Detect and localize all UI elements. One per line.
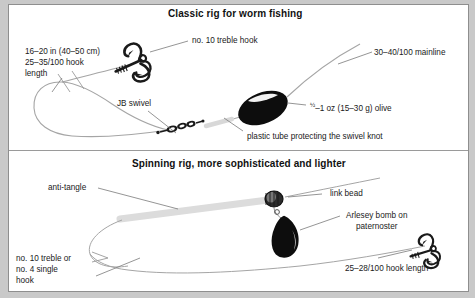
spinning-arlesey-line2: paternoster (356, 222, 397, 233)
spinning-hook-choice-line3: hook (16, 276, 34, 287)
classic-hook-length-line3: length (25, 69, 47, 80)
classic-mainline-label: 30–40/100 mainline (374, 48, 445, 59)
classic-rig-title: Classic rig for worm fishing (168, 8, 303, 19)
spinning-anti-tangle-label: anti-tangle (48, 183, 86, 194)
olive-rest: –1 oz (15–30 g) olive (315, 104, 391, 113)
figure-page: Classic rig for worm fishing 16–20 in (4… (0, 0, 475, 298)
spinning-hook-choice-line2: no. 4 single (16, 265, 58, 276)
classic-jb-swivel-label: JB swivel (117, 99, 151, 110)
classic-hook-length-line2: 25–35/100 hook (25, 58, 84, 69)
classic-olive-label: ½–1 oz (15–30 g) olive (310, 100, 392, 114)
classic-plastic-tube-label: plastic tube protecting the swivel knot (247, 132, 383, 143)
spinning-hook-choice-line1: no. 10 treble or (16, 254, 71, 265)
spinning-link-bead-label: link bead (330, 189, 363, 200)
classic-hook-length-line1: 16–20 in (40–50 cm) (25, 47, 100, 58)
spinning-hook-length-label: 25–28/100 hook length (345, 264, 428, 275)
spinning-arlesey-line1: Arlesey bomb on (346, 211, 407, 222)
spinning-rig-title: Spinning rig, more sophisticated and lig… (132, 158, 346, 169)
classic-treble-hook-label: no. 10 treble hook (192, 36, 258, 47)
panel-divider (9, 150, 468, 151)
